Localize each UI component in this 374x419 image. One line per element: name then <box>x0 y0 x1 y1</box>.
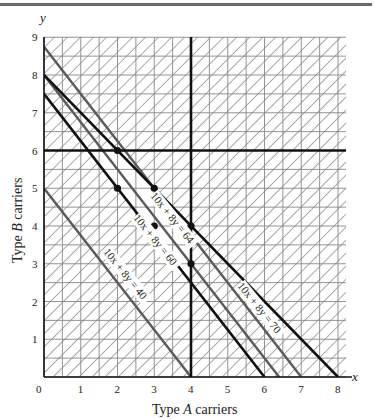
x-tick-label: 2 <box>115 383 121 395</box>
x-tick-label: 7 <box>298 383 304 395</box>
y-tick-label: 4 <box>32 220 38 232</box>
y-tick-label: 9 <box>32 31 38 43</box>
y-axis-title: Type B carriers <box>10 178 25 263</box>
y-tick-label: 7 <box>32 107 38 119</box>
x-tick-label: 5 <box>225 383 231 395</box>
x-tick-label: 4 <box>188 383 194 395</box>
x-axis-title: Type A carriers <box>152 402 237 417</box>
y-tick-label: 3 <box>32 258 38 270</box>
y-tick-label: 8 <box>32 69 38 81</box>
x-tick-label: 3 <box>151 383 157 395</box>
x-axis-letter: x <box>351 369 358 384</box>
y-axis-letter: y <box>38 10 46 25</box>
x-tick-label: 1 <box>78 383 84 395</box>
y-tick-label: 5 <box>32 182 38 194</box>
y-tick-label: 6 <box>32 145 38 157</box>
chart: 012345678123456789xyType A carriersType … <box>0 0 374 419</box>
data-point <box>114 185 121 192</box>
x-tick-label: 0 <box>36 383 42 395</box>
x-tick-label: 8 <box>335 383 341 395</box>
y-tick-label: 1 <box>32 333 38 345</box>
data-point <box>114 147 121 154</box>
x-tick-label: 6 <box>262 383 268 395</box>
data-point <box>187 260 194 267</box>
y-tick-label: 2 <box>32 296 38 308</box>
